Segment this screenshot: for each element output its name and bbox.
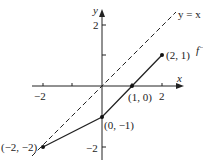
y-axis-label: y [92,4,98,16]
point-label: (−2, −2) [1,141,38,154]
tick-label-x: −2 [34,90,46,102]
identity-line-label: y = x [178,8,201,20]
point-label: (2, 1) [166,49,190,62]
function-graph: y x −2 2 2 −2 y = x (−2, −2) (0, −1) (1,… [0,0,203,164]
identity-line [32,12,176,156]
tick-label-y: −2 [86,142,98,154]
y-axis-arrow-icon [99,9,105,17]
point-marker [130,84,134,88]
curve-label: f−1 [196,44,203,56]
point-marker [41,145,45,149]
tick-label-y: 2 [93,19,99,31]
x-axis-label: x [176,72,182,84]
tick-label-x: 2 [159,90,165,102]
y-axis [99,9,106,160]
point-label: (1, 0) [128,91,152,104]
point-label: (0, −1) [104,119,134,132]
point-marker [160,53,164,57]
x-axis [32,83,184,89]
